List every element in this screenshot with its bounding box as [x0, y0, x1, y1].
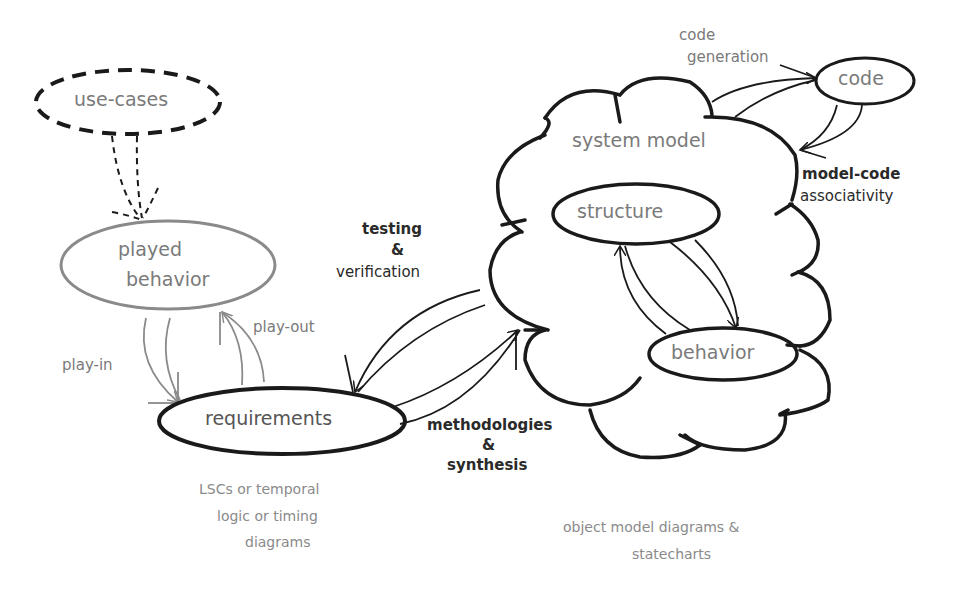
structure-label: structure: [577, 202, 663, 222]
testing-label-line2: &: [391, 243, 404, 259]
use-cases-arrows: [112, 136, 158, 220]
requirements-cloud-arrows: [345, 290, 520, 424]
requirements-note-line2: logic or timing: [217, 507, 318, 525]
methodologies-label-line2: &: [482, 438, 495, 454]
use-cases-label: use-cases: [74, 90, 168, 110]
methodologies-label-line1: methodologies: [427, 418, 552, 434]
played-behavior-label-line2: behavior: [126, 270, 209, 290]
code-label: code: [838, 69, 884, 89]
model-note-line2: statecharts: [632, 545, 711, 563]
play-in-label: play-in: [62, 358, 113, 374]
structure-behavior-arrows: [620, 240, 738, 334]
code-generation-label-line2: generation: [687, 50, 769, 66]
model-note-line1: object model diagrams &: [563, 518, 740, 536]
requirements-label: requirements: [205, 409, 332, 429]
requirements-note-line1: LSCs or temporal: [199, 480, 319, 498]
played-behavior-node: [61, 221, 275, 309]
behavior-label: behavior: [671, 343, 754, 363]
model-code-label-line2: associativity: [800, 189, 893, 205]
played-behavior-label-line1: played: [118, 240, 182, 260]
code-generation-label-line1: code: [679, 28, 715, 44]
requirements-note-line3: diagrams: [245, 533, 311, 551]
testing-label-line1: testing: [362, 222, 422, 238]
methodologies-label-line3: synthesis: [447, 458, 527, 474]
model-code-label-line1: model-code: [802, 167, 900, 183]
play-out-label: play-out: [253, 320, 315, 336]
testing-label-line3: verification: [336, 265, 420, 281]
system-model-label: system model: [572, 131, 706, 151]
